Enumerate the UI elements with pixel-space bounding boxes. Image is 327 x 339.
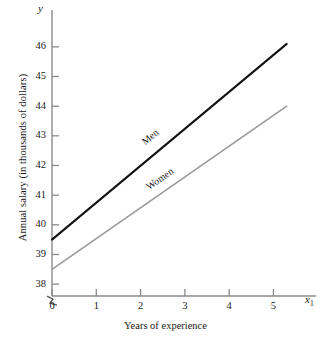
y-tick-label: 39 — [22, 249, 46, 260]
y-tick-label: 43 — [22, 130, 46, 141]
y-tick-label: 40 — [22, 219, 46, 230]
x-tick-label: 2 — [132, 301, 150, 312]
y-tick-label: 44 — [22, 101, 46, 112]
y-tick-label: 38 — [22, 279, 46, 290]
y-tick-label: 45 — [22, 71, 46, 82]
y-tick-label: 41 — [22, 190, 46, 201]
x-axis-variable-label: x1 — [305, 293, 314, 308]
y-axis-variable-label: y — [38, 2, 43, 14]
x-axis-title: Years of experience — [58, 320, 273, 331]
series-line-women — [52, 106, 287, 269]
x-tick-label: 4 — [220, 301, 238, 312]
y-tick-label: 42 — [22, 160, 46, 171]
x-axis-variable-subscript: 1 — [310, 299, 314, 308]
data-series-group — [52, 44, 287, 269]
y-tick-label: 46 — [22, 41, 46, 52]
salary-vs-experience-chart: Annual salary (in thousands of dollars) … — [0, 0, 327, 339]
x-tick-label: 1 — [87, 301, 105, 312]
series-line-men — [52, 44, 287, 240]
x-tick-label: 3 — [176, 301, 194, 312]
x-tick-label: 0 — [43, 301, 61, 312]
x-tick-label: 5 — [264, 301, 282, 312]
